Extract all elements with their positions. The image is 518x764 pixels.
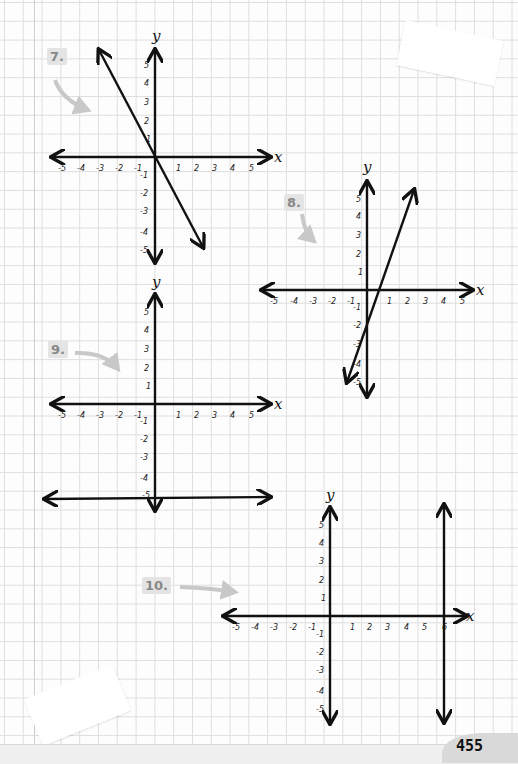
svg-text:5: 5 xyxy=(249,411,254,420)
svg-text:-4: -4 xyxy=(290,297,298,306)
svg-text:-2: -2 xyxy=(353,321,361,330)
svg-text:2: 2 xyxy=(405,297,410,306)
svg-text:3: 3 xyxy=(212,411,217,420)
svg-text:-5: -5 xyxy=(232,623,240,632)
svg-text:4: 4 xyxy=(319,539,324,548)
pointer-arrow-8 xyxy=(302,214,314,241)
svg-text:-1: -1 xyxy=(316,630,324,639)
svg-text:2: 2 xyxy=(194,411,199,420)
svg-text:-5: -5 xyxy=(316,705,324,714)
pointer-arrow-9 xyxy=(75,353,118,369)
graph-8: x y -5 -4 -3 -2 -1 1 2 3 4 5 5 4 3 2 1 -… xyxy=(262,158,485,396)
svg-text:1: 1 xyxy=(146,382,151,391)
svg-text:4: 4 xyxy=(144,326,149,335)
svg-text:5: 5 xyxy=(422,623,427,632)
svg-text:-2: -2 xyxy=(140,435,148,444)
svg-text:4: 4 xyxy=(144,79,149,88)
svg-text:-2: -2 xyxy=(316,648,324,657)
svg-text:2: 2 xyxy=(144,364,149,373)
svg-text:1: 1 xyxy=(358,268,363,277)
svg-text:4: 4 xyxy=(441,297,446,306)
svg-text:-4: -4 xyxy=(140,228,148,237)
svg-text:-5: -5 xyxy=(140,246,148,255)
svg-text:3: 3 xyxy=(423,297,428,306)
svg-text:3: 3 xyxy=(356,231,361,240)
svg-text:-1: -1 xyxy=(140,171,148,180)
y-ticks: 5 4 3 2 1 -1 -2 -3 -4 -5 xyxy=(316,521,326,714)
x-axis-label: x xyxy=(476,281,485,299)
svg-text:2: 2 xyxy=(367,623,372,632)
x-axis-label: x xyxy=(274,395,283,413)
x-axis-label: x xyxy=(466,607,475,625)
svg-text:5: 5 xyxy=(249,164,254,173)
pointer-arrow-10 xyxy=(180,587,235,592)
svg-text:-4: -4 xyxy=(140,474,148,483)
svg-text:1: 1 xyxy=(321,594,326,603)
svg-text:3: 3 xyxy=(144,345,149,354)
svg-text:-3: -3 xyxy=(96,411,104,420)
svg-text:3: 3 xyxy=(385,623,390,632)
x-axis-label: x xyxy=(274,148,283,166)
svg-text:4: 4 xyxy=(230,164,235,173)
graph-10: x y -5 -4 -3 -2 -1 1 2 3 4 5 6 5 4 3 2 1 xyxy=(224,486,475,723)
svg-text:1: 1 xyxy=(176,164,181,173)
svg-text:-2: -2 xyxy=(328,297,336,306)
svg-text:-5: -5 xyxy=(58,411,66,420)
svg-text:3: 3 xyxy=(319,557,324,566)
page-number: 455 xyxy=(456,737,483,755)
svg-text:4: 4 xyxy=(356,212,361,221)
y-axis-label: y xyxy=(325,486,335,504)
plotted-line xyxy=(99,50,203,247)
svg-text:-3: -3 xyxy=(96,164,104,173)
svg-text:2: 2 xyxy=(319,576,324,585)
svg-text:-2: -2 xyxy=(115,164,123,173)
svg-text:-3: -3 xyxy=(309,297,317,306)
svg-text:3: 3 xyxy=(212,164,217,173)
svg-text:2: 2 xyxy=(356,250,361,259)
svg-text:-4: -4 xyxy=(316,687,324,696)
svg-text:-1: -1 xyxy=(140,417,148,426)
svg-text:5: 5 xyxy=(356,195,361,204)
svg-text:-4: -4 xyxy=(77,411,85,420)
svg-text:-3: -3 xyxy=(270,623,278,632)
svg-text:2: 2 xyxy=(144,117,149,126)
svg-text:2: 2 xyxy=(194,164,199,173)
y-axis-label: y xyxy=(151,27,161,45)
y-axis-label: y xyxy=(362,158,372,176)
svg-text:-2: -2 xyxy=(140,189,148,198)
svg-text:4: 4 xyxy=(230,411,235,420)
svg-text:-4: -4 xyxy=(251,623,259,632)
svg-text:4: 4 xyxy=(404,623,409,632)
svg-text:-5: -5 xyxy=(270,297,278,306)
graph-9: x y -5 -4 -3 -2 -1 1 2 3 4 5 5 4 3 2 1 -… xyxy=(45,273,283,510)
pointer-arrow-7 xyxy=(55,80,88,110)
svg-text:-5: -5 xyxy=(353,378,361,387)
svg-text:5: 5 xyxy=(319,521,324,530)
svg-text:-3: -3 xyxy=(140,453,148,462)
plotted-line xyxy=(45,497,270,499)
svg-text:1: 1 xyxy=(350,623,355,632)
svg-text:-2: -2 xyxy=(115,411,123,420)
svg-text:-5: -5 xyxy=(58,164,66,173)
svg-text:5: 5 xyxy=(460,297,465,306)
svg-text:-2: -2 xyxy=(289,623,297,632)
graph-7: x y -5 -4 -3 -2 -1 1 2 3 4 5 5 4 3 2 1 -… xyxy=(52,27,283,262)
svg-text:5: 5 xyxy=(144,308,149,317)
svg-text:1: 1 xyxy=(387,297,392,306)
svg-text:-3: -3 xyxy=(316,666,324,675)
svg-text:-4: -4 xyxy=(77,164,85,173)
svg-text:3: 3 xyxy=(144,98,149,107)
svg-text:-3: -3 xyxy=(140,207,148,216)
x-ticks: -5 -4 -3 -2 -1 1 2 3 4 5 6 xyxy=(232,623,447,632)
svg-text:1: 1 xyxy=(176,411,181,420)
svg-text:-1: -1 xyxy=(353,303,361,312)
svg-text:5: 5 xyxy=(144,61,149,70)
svg-text:-1: -1 xyxy=(308,623,316,632)
y-axis-label: y xyxy=(151,273,161,291)
